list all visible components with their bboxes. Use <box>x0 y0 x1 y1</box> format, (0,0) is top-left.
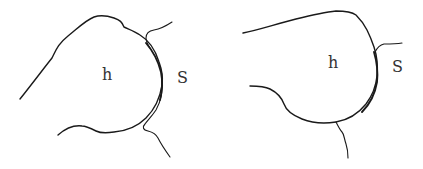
left-socket-rim <box>146 43 162 100</box>
right-socket-outline <box>375 43 402 52</box>
right-figure: h S <box>243 11 403 158</box>
left-socket-lower <box>143 80 170 157</box>
right-socket-label: S <box>392 57 403 76</box>
diagram-canvas: h S h S <box>0 0 423 169</box>
left-socket-label: S <box>177 68 188 87</box>
left-figure: h S <box>20 16 188 157</box>
right-head-label: h <box>328 53 338 72</box>
right-head-outline <box>243 11 377 123</box>
right-socket-lower <box>336 122 348 158</box>
left-head-outline <box>20 16 162 135</box>
right-socket-rim <box>362 52 377 112</box>
left-head-label: h <box>102 65 112 84</box>
